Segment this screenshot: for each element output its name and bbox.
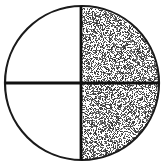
fraction-circle-figure: Circle divided into four quadrants with … [0, 0, 166, 166]
fraction-circle-svg [0, 0, 166, 166]
